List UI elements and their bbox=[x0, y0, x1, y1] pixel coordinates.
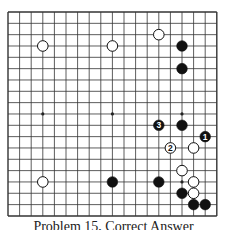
go-board: 312 bbox=[0, 0, 227, 218]
move-number-label: 2 bbox=[168, 143, 173, 153]
black-stone bbox=[177, 188, 188, 199]
white-stone bbox=[188, 188, 199, 199]
white-stone bbox=[154, 29, 165, 40]
white-stone bbox=[188, 143, 199, 154]
black-stone bbox=[154, 177, 165, 188]
star-point bbox=[41, 112, 44, 115]
white-stone bbox=[177, 165, 188, 176]
white-stone bbox=[188, 177, 199, 188]
black-stone bbox=[177, 120, 188, 131]
star-point bbox=[180, 180, 183, 183]
move-number-label: 1 bbox=[203, 132, 208, 142]
white-stone bbox=[107, 41, 118, 52]
white-stone bbox=[38, 41, 49, 52]
star-point bbox=[111, 112, 114, 115]
white-stone bbox=[38, 177, 49, 188]
black-stone bbox=[177, 41, 188, 52]
diagram-caption: Problem 15, Correct Answer bbox=[0, 219, 227, 230]
black-stone bbox=[107, 177, 118, 188]
black-stone bbox=[188, 199, 199, 210]
black-stone bbox=[200, 199, 211, 210]
black-stone bbox=[177, 63, 188, 74]
star-point bbox=[180, 112, 183, 115]
move-number-label: 3 bbox=[156, 120, 161, 130]
